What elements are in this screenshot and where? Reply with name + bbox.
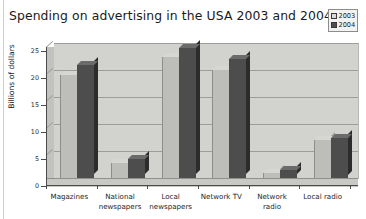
x-axis-label-line: newspapers — [95, 202, 146, 212]
bar-front — [280, 170, 297, 178]
bar-side-face — [246, 51, 250, 174]
y-axis-tick-label: 15 — [31, 101, 39, 109]
y-axis-tick-label: 0 — [35, 182, 39, 190]
x-axis-label-magazines: Magazines — [44, 192, 95, 202]
gridline — [54, 43, 358, 44]
chart-legend: 2003 2004 — [328, 9, 358, 32]
y-axis-tick: 15 — [41, 105, 46, 106]
bar-network-tv-2004 — [229, 59, 246, 178]
bar-national-newspapers-2004 — [128, 159, 145, 178]
bar-local-newspapers-2004 — [179, 48, 196, 178]
bar-front — [212, 70, 230, 178]
y-axis-tick-label: 5 — [35, 155, 39, 163]
legend-item-2004: 2004 — [331, 21, 355, 29]
bar-magazines-2003 — [60, 75, 77, 178]
gridline — [54, 151, 358, 152]
y-axis-tick: 25 — [41, 51, 46, 52]
gridline — [54, 97, 358, 98]
gridline — [54, 124, 358, 125]
gridline — [54, 70, 358, 71]
plot-area: 0510152025 MagazinesNationalnewspapersLo… — [38, 43, 358, 186]
bar-front — [111, 163, 129, 178]
x-axis-line — [46, 185, 358, 186]
x-axis-label-local-radio: Local radio — [297, 192, 348, 202]
x-axis-label-local-newspapers: Localnewspapers — [145, 192, 196, 211]
x-axis-tick — [97, 186, 98, 189]
bar-front — [77, 65, 94, 178]
x-axis-label-line: Local — [145, 192, 196, 202]
x-axis-label-network-radio: Networkradio — [247, 192, 298, 211]
bar-front — [263, 173, 281, 178]
x-axis-label-line: Local radio — [297, 192, 348, 202]
bar-front — [60, 75, 78, 178]
bar-front — [128, 159, 145, 178]
x-axis-tick — [198, 186, 199, 189]
x-axis-tick — [46, 186, 47, 189]
x-axis-tick — [249, 186, 250, 189]
y-axis-line — [46, 47, 47, 186]
bar-top-face — [331, 134, 352, 138]
x-axis-tick — [350, 186, 351, 189]
y-axis-tick: 5 — [41, 159, 46, 160]
y-axis-tick: 10 — [41, 132, 46, 133]
bar-front — [314, 140, 332, 178]
legend-swatch-2004 — [331, 22, 337, 28]
x-axis-label-line: radio — [247, 202, 298, 212]
bar-network-radio-2004 — [280, 170, 297, 178]
bar-front — [331, 138, 348, 179]
bar-local-radio-2003 — [314, 140, 331, 178]
legend-swatch-2003 — [331, 13, 337, 19]
x-axis-label-line: newspapers — [145, 202, 196, 212]
x-axis-label-national-newspapers: Nationalnewspapers — [95, 192, 146, 211]
y-axis-tick: 20 — [41, 78, 46, 79]
bar-national-newspapers-2003 — [111, 163, 128, 178]
bar-network-radio-2003 — [263, 173, 280, 178]
chart-title: Spending on advertising in the USA 2003 … — [9, 8, 332, 23]
x-axis-tick — [147, 186, 148, 189]
bar-network-tv-2003 — [212, 70, 229, 178]
advertising-spending-chart: Spending on advertising in the USA 2003 … — [0, 0, 366, 219]
x-axis-label-line: Network TV — [196, 192, 247, 202]
bar-local-radio-2004 — [331, 138, 348, 179]
x-axis-label-line: Network — [247, 192, 298, 202]
legend-label-2003: 2003 — [339, 13, 355, 20]
y-axis-tick-label: 10 — [31, 128, 39, 136]
y-axis-tick-label: 20 — [31, 74, 39, 82]
legend-item-2003: 2003 — [331, 12, 355, 20]
bar-side-face — [196, 40, 200, 174]
y-axis-tick-label: 25 — [31, 47, 39, 55]
bar-front — [162, 57, 180, 179]
bar-front — [179, 48, 196, 178]
x-axis-label-line: National — [95, 192, 146, 202]
plot-side-wall — [46, 47, 54, 182]
x-axis-label-network-tv: Network TV — [196, 192, 247, 202]
x-axis-label-line: Magazines — [44, 192, 95, 202]
x-axis-tick — [299, 186, 300, 189]
bar-front — [229, 59, 246, 178]
y-axis-title: Billions of dollars — [7, 44, 16, 109]
legend-label-2004: 2004 — [339, 22, 355, 29]
bar-local-newspapers-2003 — [162, 57, 179, 179]
bar-magazines-2004 — [77, 65, 94, 178]
bar-side-face — [94, 57, 98, 174]
